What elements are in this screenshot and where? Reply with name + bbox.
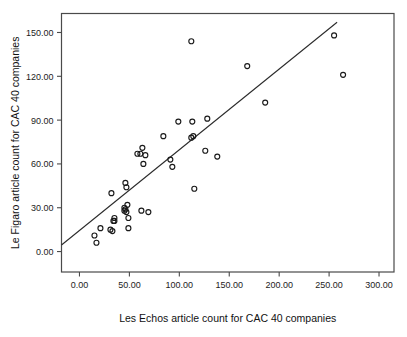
scatter-plot-figure: 0.0050.00100.00150.00200.00250.00300.000… <box>0 0 407 337</box>
data-point <box>94 240 99 245</box>
data-point <box>143 153 148 158</box>
x-tick-label: 50.00 <box>118 280 141 290</box>
data-point <box>203 148 208 153</box>
regression-line <box>62 22 338 245</box>
data-point <box>190 119 195 124</box>
data-point <box>125 202 130 207</box>
y-tick-label: 150.00 <box>26 28 54 38</box>
data-point <box>146 210 151 215</box>
y-tick-label: 90.00 <box>31 116 54 126</box>
data-point <box>189 39 194 44</box>
data-point <box>263 100 268 105</box>
y-tick-label: 0.00 <box>36 247 54 257</box>
x-axis-title: Les Echos article count for CAC 40 compa… <box>119 312 336 324</box>
x-tick-label: 250.00 <box>315 280 343 290</box>
data-point <box>215 154 220 159</box>
data-point <box>126 226 131 231</box>
x-tick-label: 100.00 <box>166 280 194 290</box>
data-point <box>109 191 114 196</box>
y-tick-label: 30.00 <box>31 203 54 213</box>
data-point <box>332 33 337 38</box>
data-point <box>341 72 346 77</box>
y-axis-title: Le Figaro article count for CAC 40 compa… <box>9 37 21 249</box>
x-tick-label: 300.00 <box>365 280 393 290</box>
data-point <box>140 145 145 150</box>
data-point <box>92 233 97 238</box>
plot-canvas: 0.0050.00100.00150.00200.00250.00300.000… <box>0 0 407 337</box>
y-tick-label: 60.00 <box>31 159 54 169</box>
x-tick-label: 0.00 <box>71 280 89 290</box>
data-point <box>139 208 144 213</box>
data-point <box>98 226 103 231</box>
data-point <box>168 157 173 162</box>
data-point <box>205 116 210 121</box>
data-point <box>170 164 175 169</box>
data-point <box>192 186 197 191</box>
data-point <box>161 134 166 139</box>
data-point <box>176 119 181 124</box>
x-tick-label: 200.00 <box>265 280 293 290</box>
x-tick-label: 150.00 <box>215 280 243 290</box>
data-point <box>141 161 146 166</box>
y-tick-label: 120.00 <box>26 72 54 82</box>
data-point <box>126 215 131 220</box>
data-point <box>245 64 250 69</box>
